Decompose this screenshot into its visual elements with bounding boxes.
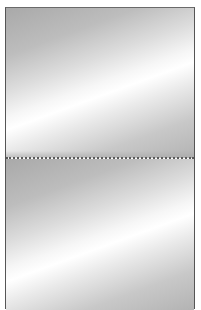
bottom-metallic-panel — [6, 159, 194, 310]
metallic-frame — [5, 7, 195, 309]
bottom-panel-gradient — [6, 159, 194, 310]
top-panel-gradient — [6, 8, 194, 158]
top-metallic-panel — [6, 8, 194, 158]
